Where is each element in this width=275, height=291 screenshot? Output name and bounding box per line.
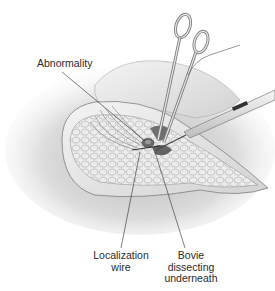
surgical-illustration — [0, 0, 275, 291]
label-wire-line-2: wire — [85, 262, 157, 274]
label-abnormality: Abnormality — [37, 58, 92, 70]
label-localization-wire: Localization wire — [85, 250, 157, 273]
label-bovie-line-3: underneath — [160, 273, 222, 285]
label-bovie: Bovie dissecting underneath — [160, 250, 222, 285]
label-bovie-line-1: Bovie — [160, 250, 222, 262]
label-abnormality-text: Abnormality — [37, 57, 92, 69]
label-wire-line-1: Localization — [85, 250, 157, 262]
